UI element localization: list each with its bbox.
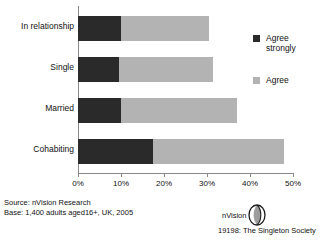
legend-label: Agree: [266, 75, 333, 85]
legend-item-agree: Agree: [253, 75, 333, 85]
x-tick-label: 50%: [278, 179, 308, 188]
category-label: Cohabiting: [2, 145, 74, 154]
bar-segment: [78, 139, 153, 164]
category-label: Married: [2, 104, 74, 113]
legend-item-agree-strongly: Agree strongly: [253, 33, 333, 53]
nvision-globe-icon: [247, 204, 267, 226]
brand-name: nVision: [222, 211, 246, 220]
category-axis-labels: In relationship Single Married Cohabitin…: [0, 0, 74, 190]
legend-label-second-line: strongly: [266, 43, 333, 53]
x-tick-label: 20%: [149, 179, 179, 188]
base-text: Base: 1,400 adults aged16+, UK, 2005: [4, 208, 133, 218]
x-tick-label: 0%: [63, 179, 93, 188]
category-label: Single: [2, 63, 74, 72]
x-tick-label: 30%: [192, 179, 222, 188]
nvision-logo: nVision: [222, 204, 267, 226]
dark-swatch-icon: [253, 35, 260, 42]
bar-segment: [121, 16, 209, 41]
x-tick-mark: [78, 173, 79, 177]
category-label: In relationship: [2, 22, 74, 31]
x-tick-mark: [164, 173, 165, 177]
bar-segment: [119, 57, 214, 82]
source-text: Source: nVision Research: [4, 198, 133, 208]
credit-text: 19198: The Singleton Society: [218, 226, 316, 235]
x-axis-line: [78, 173, 293, 174]
x-tick-label: 10%: [106, 179, 136, 188]
bar-segment: [153, 139, 284, 164]
light-swatch-icon: [253, 77, 260, 84]
legend-label: Agree: [266, 33, 333, 43]
bar-segment: [78, 57, 119, 82]
x-tick-mark: [121, 173, 122, 177]
footer-source-block: Source: nVision Research Base: 1,400 adu…: [4, 198, 133, 218]
x-tick-mark: [207, 173, 208, 177]
stacked-bar-chart: In relationship Single Married Cohabitin…: [0, 0, 336, 241]
bar-segment: [78, 16, 121, 41]
x-tick-mark: [293, 173, 294, 177]
chart-legend: Agree strongly Agree: [253, 33, 333, 107]
x-tick-mark: [250, 173, 251, 177]
bar-segment: [121, 98, 237, 123]
bar-segment: [78, 98, 121, 123]
x-tick-label: 40%: [235, 179, 265, 188]
